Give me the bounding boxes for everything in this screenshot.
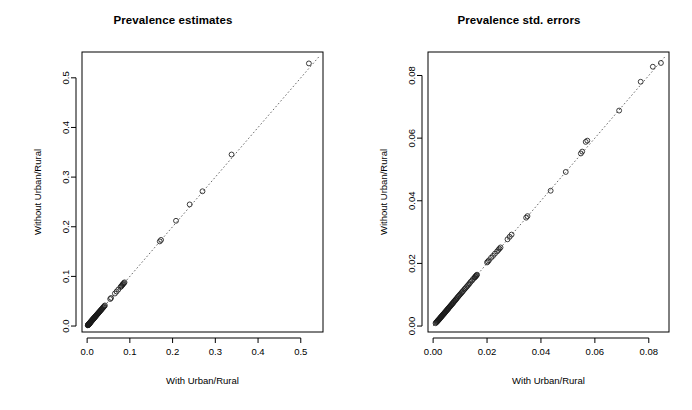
y-tick-label: 0.04 <box>406 192 417 211</box>
scatter-plot-right: 0.000.020.040.060.080.000.020.040.060.08… <box>346 0 692 410</box>
x-tick-label: 0.02 <box>478 346 497 357</box>
data-points-group <box>85 61 311 328</box>
data-point <box>617 108 622 113</box>
x-tick-label: 0.2 <box>166 346 179 357</box>
y-tick-label: 0.5 <box>60 71 71 84</box>
y-tick-label: 0.3 <box>60 170 71 183</box>
scatter-plot-left: 0.00.10.20.30.40.50.00.10.20.30.40.5With… <box>0 0 346 410</box>
y-tick-label: 0.06 <box>406 129 417 148</box>
data-point <box>650 64 655 69</box>
data-points-group <box>433 61 663 326</box>
x-tick-label: 0.0 <box>81 346 94 357</box>
data-point <box>548 188 553 193</box>
figure-container: Prevalence estimates 0.00.10.20.30.40.50… <box>0 0 692 410</box>
y-tick-label: 0.08 <box>406 66 417 85</box>
x-tick-label: 0.1 <box>123 346 136 357</box>
data-point <box>159 237 164 242</box>
y-tick-label: 0.02 <box>406 254 417 273</box>
panel-prevalence-std-errors: Prevalence std. errors 0.000.020.040.060… <box>346 0 692 410</box>
x-tick-label: 0.06 <box>586 346 605 357</box>
x-axis-label: With Urban/Rural <box>512 375 585 386</box>
data-point <box>174 218 179 223</box>
x-tick-label: 0.3 <box>209 346 222 357</box>
x-tick-label: 0.00 <box>424 346 443 357</box>
y-tick-label: 0.1 <box>60 270 71 283</box>
data-point <box>229 152 234 157</box>
x-tick-label: 0.4 <box>251 346 264 357</box>
x-tick-label: 0.5 <box>294 346 307 357</box>
panel-prevalence-estimates: Prevalence estimates 0.00.10.20.30.40.50… <box>0 0 346 410</box>
x-tick-label: 0.04 <box>532 346 551 357</box>
y-tick-label: 0.2 <box>60 220 71 233</box>
y-axis-label: Without Urban/Rural <box>378 149 389 235</box>
y-axis-label: Without Urban/Rural <box>32 149 43 235</box>
data-point <box>563 170 568 175</box>
x-axis-label: With Urban/Rural <box>166 375 239 386</box>
y-tick-label: 0.00 <box>406 317 417 336</box>
data-point <box>306 61 311 66</box>
y-tick-label: 0.0 <box>60 319 71 332</box>
x-tick-label: 0.08 <box>640 346 659 357</box>
data-point <box>200 189 205 194</box>
data-point <box>638 79 643 84</box>
y-tick-label: 0.4 <box>60 121 71 134</box>
